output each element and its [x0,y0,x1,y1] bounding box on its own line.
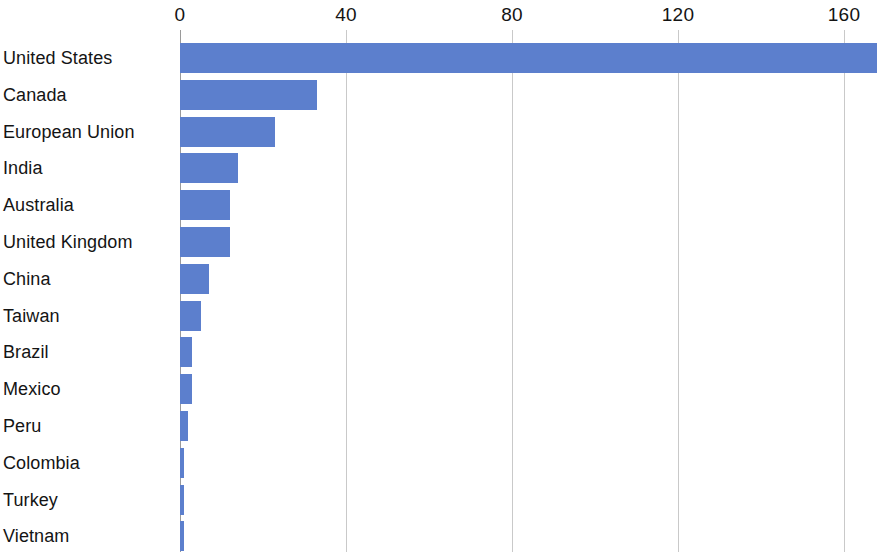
bar-colombia[interactable] [180,448,184,478]
category-label-mexico: Mexico [3,374,61,404]
category-label-peru: Peru [3,411,41,441]
category-label-united-kingdom: United Kingdom [3,227,132,257]
gridline-120 [678,30,679,552]
category-label-taiwan: Taiwan [3,301,60,331]
category-axis-labels: United StatesCanadaEuropean UnionIndiaAu… [0,0,176,552]
bar-taiwan[interactable] [180,301,201,331]
category-label-canada: Canada [3,80,67,110]
tick-label-40: 40 [335,4,357,26]
plot-area: 04080120160 [180,0,889,552]
horizontal-bar-chart: United StatesCanadaEuropean UnionIndiaAu… [0,0,889,552]
category-label-turkey: Turkey [3,485,58,515]
bar-india[interactable] [180,153,238,183]
bar-australia[interactable] [180,190,230,220]
bar-brazil[interactable] [180,337,192,367]
bar-united-states[interactable] [180,43,877,73]
category-label-brazil: Brazil [3,337,49,367]
bar-mexico[interactable] [180,374,192,404]
category-label-united-states: United States [3,43,112,73]
category-label-vietnam: Vietnam [3,521,69,551]
tick-label-0: 0 [175,4,186,26]
tick-label-120: 120 [662,4,694,26]
gridline-80 [512,30,513,552]
bar-united-kingdom[interactable] [180,227,230,257]
category-label-european-union: European Union [3,117,135,147]
category-label-australia: Australia [3,190,74,220]
gridline-40 [346,30,347,552]
tick-label-80: 80 [501,4,523,26]
category-label-india: India [3,153,43,183]
bar-european-union[interactable] [180,117,275,147]
bar-canada[interactable] [180,80,317,110]
category-label-colombia: Colombia [3,448,80,478]
bar-turkey[interactable] [180,485,184,515]
bar-china[interactable] [180,264,209,294]
category-label-china: China [3,264,51,294]
bar-peru[interactable] [180,411,188,441]
gridline-160 [844,30,845,552]
bar-vietnam[interactable] [180,521,184,551]
tick-label-160: 160 [828,4,860,26]
